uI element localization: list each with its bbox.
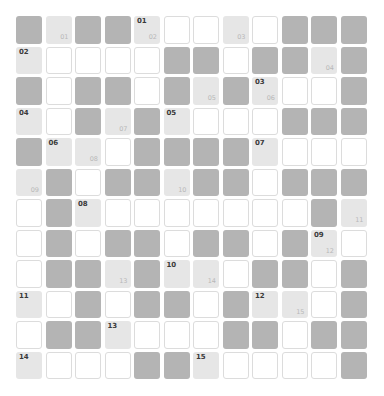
clue-cell[interactable]: 12	[252, 291, 278, 319]
empty-cell[interactable]	[252, 108, 278, 136]
clue-cell[interactable]: 04	[311, 47, 337, 75]
empty-cell[interactable]	[134, 321, 160, 349]
empty-cell[interactable]	[134, 199, 160, 227]
empty-cell[interactable]	[311, 352, 337, 380]
empty-cell[interactable]	[341, 230, 367, 258]
clue-cell[interactable]: 0306	[252, 77, 278, 105]
empty-cell[interactable]	[75, 169, 101, 197]
blocked-cell	[134, 230, 160, 258]
clue-cell[interactable]: 11	[341, 199, 367, 227]
clue-number: 14	[19, 354, 29, 361]
empty-cell[interactable]	[134, 77, 160, 105]
clue-cell[interactable]: 0102	[134, 16, 160, 44]
clue-number: 02	[19, 49, 29, 56]
answer-index: 05	[208, 95, 216, 102]
empty-cell[interactable]	[16, 321, 42, 349]
blocked-cell	[134, 108, 160, 136]
empty-cell[interactable]	[105, 47, 131, 75]
empty-cell[interactable]	[16, 199, 42, 227]
clue-cell[interactable]: 08	[75, 199, 101, 227]
empty-cell[interactable]	[75, 352, 101, 380]
blocked-cell	[311, 16, 337, 44]
empty-cell[interactable]	[341, 138, 367, 166]
empty-cell[interactable]	[46, 108, 72, 136]
clue-cell[interactable]: 15	[193, 352, 219, 380]
empty-cell[interactable]	[282, 138, 308, 166]
answer-index: 08	[90, 156, 98, 163]
empty-cell[interactable]	[252, 230, 278, 258]
empty-cell[interactable]	[164, 16, 190, 44]
clue-cell[interactable]: 07	[105, 108, 131, 136]
empty-cell[interactable]	[311, 77, 337, 105]
clue-cell[interactable]: 10	[164, 169, 190, 197]
empty-cell[interactable]	[105, 138, 131, 166]
answer-index: 04	[326, 65, 334, 72]
empty-cell[interactable]	[223, 260, 249, 288]
empty-cell[interactable]	[252, 352, 278, 380]
clue-cell[interactable]: 03	[223, 16, 249, 44]
empty-cell[interactable]	[252, 16, 278, 44]
empty-cell[interactable]	[105, 352, 131, 380]
empty-cell[interactable]	[193, 291, 219, 319]
blocked-cell	[252, 47, 278, 75]
empty-cell[interactable]	[105, 199, 131, 227]
empty-cell[interactable]	[164, 230, 190, 258]
blocked-cell	[311, 321, 337, 349]
empty-cell[interactable]	[193, 108, 219, 136]
blocked-cell	[223, 291, 249, 319]
empty-cell[interactable]	[282, 321, 308, 349]
empty-cell[interactable]	[193, 16, 219, 44]
clue-cell[interactable]: 0912	[311, 230, 337, 258]
empty-cell[interactable]	[75, 230, 101, 258]
empty-cell[interactable]	[252, 199, 278, 227]
empty-cell[interactable]	[223, 352, 249, 380]
clue-cell[interactable]: 05	[164, 108, 190, 136]
empty-cell[interactable]	[46, 77, 72, 105]
clue-cell[interactable]: 13	[105, 260, 131, 288]
empty-cell[interactable]	[164, 321, 190, 349]
crossword-grid: 0101020302040503060407050608070910081109…	[16, 16, 368, 382]
blocked-cell	[252, 321, 278, 349]
clue-cell[interactable]: 08	[75, 138, 101, 166]
clue-cell[interactable]: 15	[282, 291, 308, 319]
empty-cell[interactable]	[311, 260, 337, 288]
clue-cell[interactable]: 14	[16, 352, 42, 380]
empty-cell[interactable]	[164, 199, 190, 227]
empty-cell[interactable]	[282, 199, 308, 227]
answer-index: 02	[149, 34, 157, 41]
clue-cell[interactable]: 01	[46, 16, 72, 44]
empty-cell[interactable]	[46, 291, 72, 319]
empty-cell[interactable]	[193, 199, 219, 227]
blocked-cell	[75, 16, 101, 44]
empty-cell[interactable]	[193, 321, 219, 349]
empty-cell[interactable]	[311, 291, 337, 319]
empty-cell[interactable]	[223, 108, 249, 136]
clue-cell[interactable]: 05	[193, 77, 219, 105]
empty-cell[interactable]	[282, 352, 308, 380]
clue-cell[interactable]: 13	[105, 321, 131, 349]
empty-cell[interactable]	[252, 169, 278, 197]
empty-cell[interactable]	[75, 47, 101, 75]
clue-number: 01	[137, 18, 147, 25]
empty-cell[interactable]	[16, 260, 42, 288]
empty-cell[interactable]	[223, 47, 249, 75]
clue-cell[interactable]: 10	[164, 260, 190, 288]
clue-cell[interactable]: 06	[46, 138, 72, 166]
empty-cell[interactable]	[46, 47, 72, 75]
blocked-cell	[311, 108, 337, 136]
blocked-cell	[46, 169, 72, 197]
empty-cell[interactable]	[16, 230, 42, 258]
clue-cell[interactable]: 09	[16, 169, 42, 197]
empty-cell[interactable]	[46, 352, 72, 380]
empty-cell[interactable]	[282, 77, 308, 105]
clue-cell[interactable]: 07	[252, 138, 278, 166]
empty-cell[interactable]	[311, 138, 337, 166]
clue-cell[interactable]: 04	[16, 108, 42, 136]
empty-cell[interactable]	[134, 47, 160, 75]
empty-cell[interactable]	[105, 291, 131, 319]
answer-index: 09	[31, 187, 39, 194]
empty-cell[interactable]	[223, 199, 249, 227]
clue-cell[interactable]: 14	[193, 260, 219, 288]
clue-cell[interactable]: 11	[16, 291, 42, 319]
clue-cell[interactable]: 02	[16, 47, 42, 75]
